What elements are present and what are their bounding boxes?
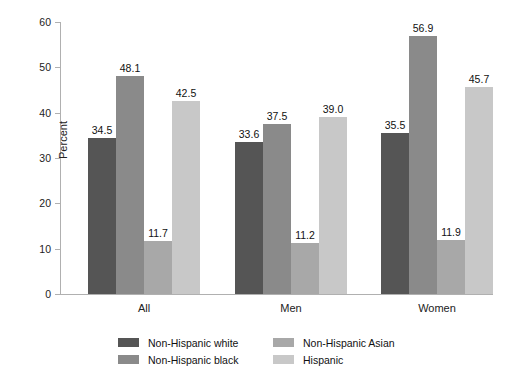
bar-rect [465,87,493,294]
bar-rect [88,138,116,294]
y-axis-tick-label: 20 [21,195,51,211]
legend-label: Non-Hispanic white [148,337,238,349]
y-axis-tick-label: 60 [21,14,51,30]
y-axis-tick-mark [55,22,60,23]
bar-rect [235,142,263,294]
legend-item[interactable]: Hispanic [273,354,404,366]
legend-swatch-icon [273,338,294,347]
bar-value-label: 48.1 [109,62,151,74]
legend-item[interactable]: Non-Hispanic Asian [273,337,404,349]
bar-group: 33.637.511.239.0 [235,22,347,294]
bar-value-label: 42.5 [165,87,207,99]
y-axis-tick-label: 10 [21,241,51,257]
legend-row: Non-Hispanic whiteNon-Hispanic Asian [118,334,404,351]
y-axis-tick-label: 50 [21,59,51,75]
x-axis-category-label: Men [235,302,347,314]
bar-value-label: 56.9 [402,22,444,34]
bar-rect [409,36,437,294]
chart-figure: 0102030405060 Percent All34.548.111.742.… [0,0,511,387]
x-axis-category-label: All [88,302,200,314]
y-axis-tick-mark [55,203,60,204]
legend-item[interactable]: Non-Hispanic white [118,337,273,349]
bar-rect [319,117,347,294]
bar-group: 34.548.111.742.5 [88,22,200,294]
y-axis-tick-mark [55,249,60,250]
legend-item[interactable]: Non-Hispanic black [118,354,273,366]
bar-rect [437,240,465,294]
y-axis-tick-label: 30 [21,150,51,166]
bar-rect [116,76,144,294]
bar-value-label: 37.5 [256,110,298,122]
bar-rect [291,243,319,294]
legend-swatch-icon [118,338,139,347]
y-axis-label: Percent [57,105,69,175]
y-axis-tick-mark [55,67,60,68]
x-axis-line [60,294,493,295]
bar-rect [172,101,200,294]
legend-swatch-icon [118,355,139,364]
legend-label: Hispanic [303,354,343,366]
plot-area: 0102030405060 Percent All34.548.111.742.… [60,22,492,294]
bar-value-label: 39.0 [312,103,354,115]
legend-swatch-icon [273,355,294,364]
x-axis-category-label: Women [381,302,493,314]
bar-rect [144,241,172,294]
legend-row: Non-Hispanic blackHispanic [118,351,404,368]
y-axis-tick-label: 40 [21,105,51,121]
y-axis-tick-mark [55,294,60,295]
bar-value-label: 45.7 [458,73,500,85]
chart-legend: Non-Hispanic whiteNon-Hispanic AsianNon-… [118,334,404,368]
bar-rect [381,133,409,294]
bar-group: 35.556.911.945.7 [381,22,493,294]
bar-rect [263,124,291,294]
y-axis-tick-label: 0 [21,286,51,302]
legend-label: Non-Hispanic black [148,354,238,366]
legend-label: Non-Hispanic Asian [303,337,395,349]
